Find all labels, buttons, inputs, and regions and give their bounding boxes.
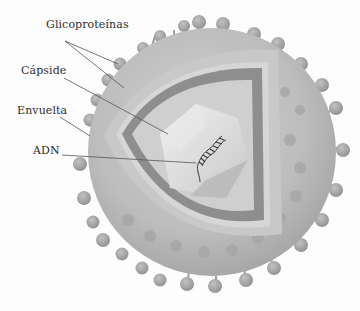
leader-glicoproteinas-1	[65, 41, 118, 64]
label-glicoproteinas: Glicoproteínas	[46, 18, 129, 31]
label-envuelta: Envuelta	[17, 104, 67, 117]
label-adn: ADN	[33, 144, 60, 157]
virus-diagram: Glicoproteínas Cápside Envuelta ADN	[0, 0, 360, 311]
label-capside: Cápside	[21, 64, 66, 77]
